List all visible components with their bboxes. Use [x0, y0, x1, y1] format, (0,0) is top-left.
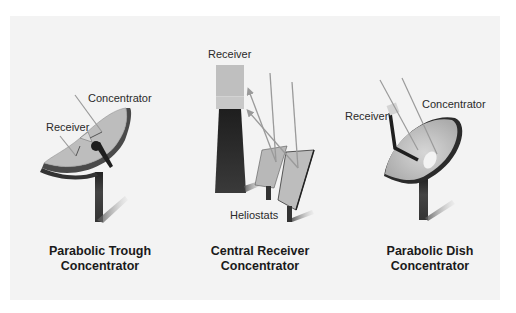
- trough-concentrator-label: Concentrator: [88, 92, 152, 104]
- parabolic-trough-illustration: [40, 95, 131, 223]
- central-title-line1: Central Receiver: [200, 244, 320, 259]
- central-receiver-label: Receiver: [208, 48, 251, 60]
- trough-title-line1: Parabolic Trough: [40, 244, 160, 259]
- dish-pole: [419, 178, 428, 220]
- trough-pole: [95, 172, 103, 222]
- dish-concentrator-label: Concentrator: [422, 98, 486, 110]
- central-title: Central Receiver Concentrator: [200, 244, 320, 274]
- heliostats-label: Heliostats: [230, 209, 278, 221]
- central-receiver-illustration: [215, 65, 314, 222]
- central-title-line2: Concentrator: [200, 259, 320, 274]
- dish-title-line2: Concentrator: [370, 259, 490, 274]
- trough-receiver-label: Receiver: [46, 121, 89, 133]
- dish-title-line1: Parabolic Dish: [370, 244, 490, 259]
- dish-title: Parabolic Dish Concentrator: [370, 244, 490, 274]
- trough-title-line2: Concentrator: [40, 259, 160, 274]
- trough-title: Parabolic Trough Concentrator: [40, 244, 160, 274]
- tower: [215, 109, 246, 193]
- dish-receiver-label: Receiver: [345, 110, 388, 122]
